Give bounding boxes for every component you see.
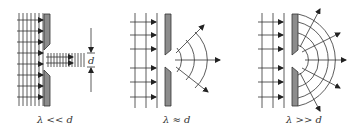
barrier-bottom bbox=[165, 67, 171, 106]
transmitted-wavefronts bbox=[48, 53, 84, 67]
incident-rays bbox=[130, 22, 156, 97]
panel-large-wavelength: λ >> d bbox=[258, 9, 346, 125]
barrier-bottom bbox=[44, 70, 50, 106]
incident-wavefronts bbox=[135, 13, 157, 108]
caption-comparable-wavelength: λ ≈ d bbox=[162, 114, 190, 125]
incident-wavefronts bbox=[262, 13, 284, 108]
barrier-top bbox=[165, 14, 171, 55]
diffraction-diagram: d λ << d λ ≈ d bbox=[0, 0, 361, 136]
caption-large-wavelength: λ >> d bbox=[285, 114, 322, 125]
barrier-top bbox=[292, 14, 298, 55]
barrier-top bbox=[44, 14, 50, 50]
panel-comparable-wavelength: λ ≈ d bbox=[130, 13, 220, 125]
barrier-bottom bbox=[292, 67, 298, 106]
diffracted-rays bbox=[300, 9, 346, 111]
incident-wavefronts bbox=[19, 13, 43, 106]
caption-small-wavelength: λ << d bbox=[36, 114, 73, 125]
panel-small-wavelength: d λ << d bbox=[17, 13, 95, 125]
dimension-label: d bbox=[88, 55, 94, 66]
